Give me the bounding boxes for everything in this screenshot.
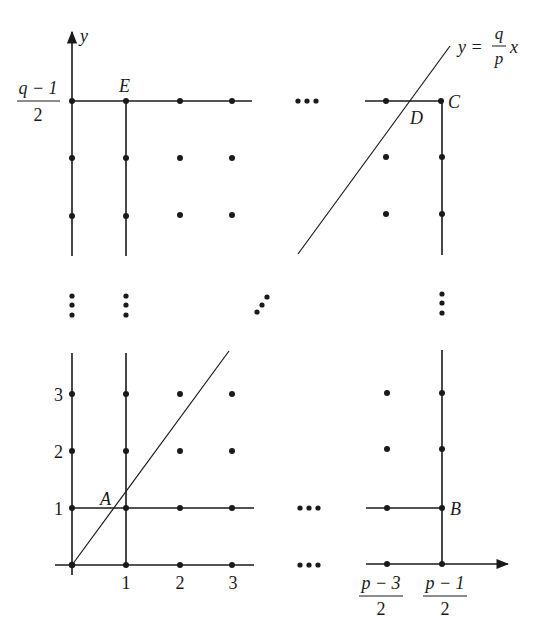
x-tick-3: 3 (229, 573, 238, 593)
y-tick-2: 2 (54, 442, 63, 462)
point-label-D: D (409, 108, 423, 128)
x-fraction-2-numerator: p − 1 (423, 573, 464, 593)
y-tick-1: 1 (54, 499, 63, 519)
diagonal-ellipsis (254, 294, 269, 314)
x-fraction-1-numerator: p − 3 (359, 573, 400, 593)
vertical-ellipsis-right (439, 291, 444, 315)
y-fraction-denominator: 2 (34, 105, 43, 125)
equation-numerator: q (495, 24, 504, 43)
y-tick-3: 3 (54, 385, 63, 405)
point-label-B: B (450, 499, 461, 519)
lattice-diagram: y 1 2 3 q − 1 2 1 2 3 p − 3 2 p − 1 2 y … (0, 0, 541, 642)
equation-denominator: p (494, 49, 504, 68)
horizontal-ellipsis-top (295, 98, 318, 103)
diagonal-line-upper (298, 46, 450, 254)
diagonal-line-lower (72, 351, 229, 565)
x-tick-2: 2 (176, 573, 185, 593)
point-label-A: A (99, 489, 112, 509)
horizontal-ellipsis-row1 (297, 505, 320, 510)
x-tick-fraction-p-minus-3: p − 3 2 (359, 573, 403, 619)
x-fraction-2-denominator: 2 (441, 599, 450, 619)
point-label-C: C (448, 92, 461, 112)
point-label-E: E (118, 76, 130, 96)
y-fraction-numerator: q − 1 (18, 78, 57, 98)
y-tick-fraction: q − 1 2 (17, 78, 60, 125)
horizontal-ellipsis-row0 (297, 562, 320, 567)
x-fraction-1-denominator: 2 (377, 599, 386, 619)
vertical-ellipsis-left (69, 293, 74, 317)
vertical-ellipsis-x1 (123, 293, 128, 317)
line-equation-label: y = q p x (456, 24, 518, 68)
equation-lhs: y = (456, 37, 483, 57)
equation-rhs: x (509, 37, 518, 57)
y-axis-label: y (78, 26, 88, 46)
x-tick-fraction-p-minus-1: p − 1 2 (423, 573, 467, 619)
x-tick-1: 1 (122, 573, 131, 593)
